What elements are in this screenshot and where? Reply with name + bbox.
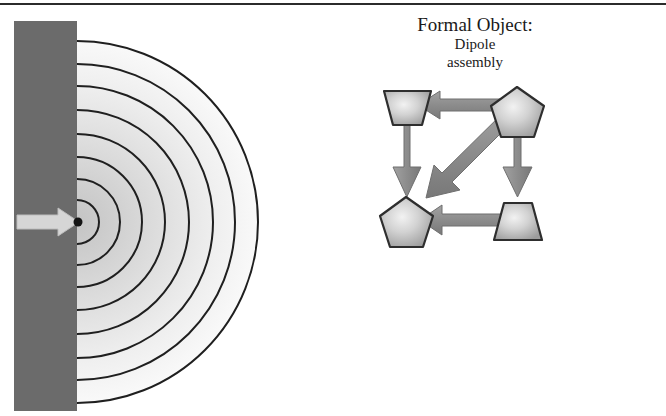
caption-line-1: Formal Object: bbox=[360, 14, 590, 36]
edge-left-down-arrow bbox=[393, 117, 421, 197]
dipole-assembly-diagram bbox=[370, 85, 575, 260]
wave-figure-svg bbox=[0, 0, 330, 416]
node-bottom-right-trapezoid[interactable] bbox=[494, 203, 542, 240]
point-source-dot bbox=[74, 218, 83, 227]
node-top-left-trapezoid[interactable] bbox=[384, 91, 431, 125]
node-bottom-left-pentagon[interactable] bbox=[380, 197, 433, 247]
wave-figure bbox=[0, 0, 330, 416]
edge-bottom-left-arrow bbox=[420, 205, 508, 235]
dipole-assembly-svg bbox=[370, 85, 575, 260]
page-root: Formal Object: Dipole assembly bbox=[0, 0, 666, 416]
caption-line-3: assembly bbox=[360, 54, 590, 72]
caption-line-2: Dipole bbox=[360, 36, 590, 54]
figure-caption: Formal Object: Dipole assembly bbox=[360, 14, 590, 72]
node-top-right-pentagon[interactable] bbox=[491, 87, 544, 137]
